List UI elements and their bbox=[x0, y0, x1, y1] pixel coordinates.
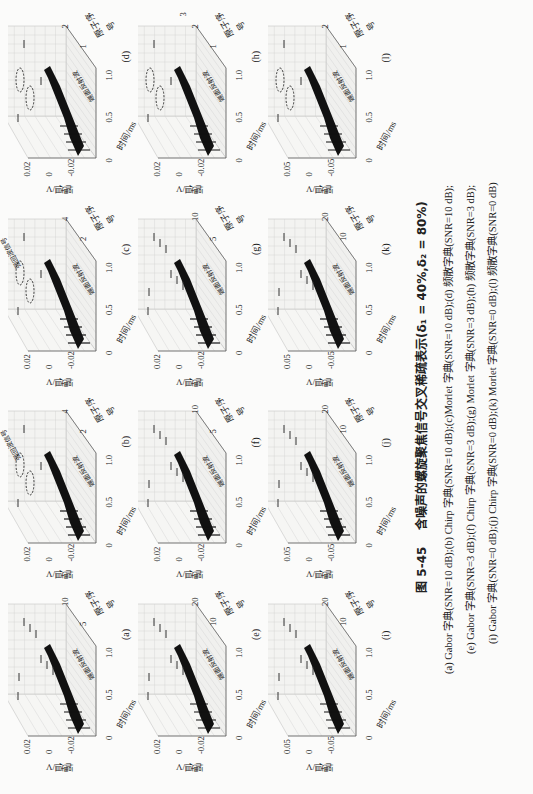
y-tick-mid: 0 bbox=[44, 750, 54, 754]
x-tick-0: 0 bbox=[234, 351, 244, 355]
x-tick-0: 0 bbox=[104, 351, 114, 355]
y-tick-bot: -0.02 bbox=[66, 544, 76, 562]
x-tick-0-5: 0.5 bbox=[234, 497, 244, 508]
z-tick-1: 10 bbox=[208, 618, 218, 627]
chart-panel-a: 幅值/V 0.02 0 -0.02 0 0.5 1.0 时间/ms 5 10 原… bbox=[8, 584, 138, 777]
z-tick-3: 3 bbox=[178, 12, 188, 16]
z-tick-1: 2 bbox=[78, 429, 88, 433]
y-axis-label: 幅值/V bbox=[46, 761, 73, 774]
z-tick-1: 5 bbox=[78, 622, 88, 626]
y-tick-bot: -0.02 bbox=[196, 351, 206, 369]
y-tick-mid: 0 bbox=[304, 750, 314, 754]
z-tick-2: 2 bbox=[60, 24, 70, 28]
z-tick-2: 10 bbox=[60, 598, 70, 607]
chart-panel-l: 幅值/V 0.05 0 -0.05 0 0.5 1.0 时间/ms 1 2 原子… bbox=[268, 6, 398, 199]
chart-panel-j: 幅值/V 0.05 0 -0.05 0 0.5 1.0 时间/ms 10 20 … bbox=[268, 391, 398, 584]
y-tick-top: 0.02 bbox=[152, 162, 162, 177]
y-axis-label: 幅值/V bbox=[176, 376, 203, 389]
x-tick-0-5: 0.5 bbox=[104, 497, 114, 508]
panel-label: (b) bbox=[120, 436, 131, 448]
x-tick-1-0: 1.0 bbox=[234, 262, 244, 273]
chart-panel-e: 幅值/V 0.02 0 -0.02 0 0.5 1.0 时间/ms 10 20 … bbox=[138, 584, 268, 777]
y-tick-top: 0.05 bbox=[282, 162, 292, 177]
chart-panel-d: 幅值/V 0.02 0 -0.02 0 0.5 1.0 时间/ms 1 2 原子… bbox=[8, 6, 138, 199]
z-tick-2: 20 bbox=[320, 598, 330, 607]
y-tick-bot: -0.05 bbox=[326, 159, 336, 177]
y-tick-mid: 0 bbox=[174, 557, 184, 561]
y-tick-bot: -0.02 bbox=[66, 351, 76, 369]
z-tick-2: 10 bbox=[190, 405, 200, 414]
panel-grid: 幅值/V 0.02 0 -0.02 0 0.5 1.0 时间/ms 5 10 原… bbox=[8, 6, 398, 776]
x-tick-0: 0 bbox=[234, 158, 244, 162]
x-tick-0: 0 bbox=[104, 158, 114, 162]
y-axis-label: 幅值/V bbox=[46, 569, 73, 582]
rotated-page: 幅值/V 0.02 0 -0.02 0 0.5 1.0 时间/ms 5 10 原… bbox=[0, 0, 533, 794]
y-tick-bot: -0.02 bbox=[66, 159, 76, 177]
x-tick-1-0: 1.0 bbox=[364, 70, 374, 81]
z-tick-1: 5 bbox=[208, 237, 218, 241]
y-tick-mid: 0 bbox=[44, 557, 54, 561]
y-tick-top: 0.02 bbox=[152, 739, 162, 754]
z-tick-2: 20 bbox=[320, 213, 330, 222]
panel-label: (g) bbox=[250, 243, 261, 255]
z-tick-1: 10 bbox=[338, 618, 348, 627]
y-tick-top: 0.02 bbox=[22, 354, 32, 369]
x-tick-0-5: 0.5 bbox=[364, 112, 374, 123]
chart-panel-f: 幅值/V 0.02 0 -0.02 0 0.5 1.0 时间/ms 5 10 原… bbox=[138, 391, 268, 584]
x-tick-0-5: 0.5 bbox=[234, 112, 244, 123]
y-tick-top: 0.02 bbox=[22, 162, 32, 177]
x-tick-0: 0 bbox=[364, 736, 374, 740]
y-axis-label: 幅值/V bbox=[176, 761, 203, 774]
x-tick-0: 0 bbox=[104, 736, 114, 740]
z-tick-2: 4 bbox=[60, 217, 70, 221]
y-tick-bot: -0.05 bbox=[326, 544, 336, 562]
x-tick-0-5: 0.5 bbox=[364, 497, 374, 508]
y-tick-top: 0.05 bbox=[282, 739, 292, 754]
caption-line-3: (i) Gabor 字典(SNR=0 dB);(j) Chirp 字典(SNR=… bbox=[484, 182, 499, 644]
x-tick-1-0: 1.0 bbox=[364, 262, 374, 273]
chart-panel-c: 幅值/V 0.02 0 -0.02 0 0.5 1.0 时间/ms 2 4 原子… bbox=[8, 199, 138, 392]
x-tick-1-0: 1.0 bbox=[234, 455, 244, 466]
x-tick-1-0: 1.0 bbox=[364, 455, 374, 466]
y-axis-label: 幅值/V bbox=[306, 184, 333, 197]
y-axis-label: 幅值/V bbox=[306, 761, 333, 774]
z-tick-2: 2 bbox=[320, 24, 330, 28]
y-tick-mid: 0 bbox=[174, 172, 184, 176]
panel-label: (h) bbox=[250, 51, 261, 63]
x-tick-0: 0 bbox=[364, 543, 374, 547]
panel-label: (e) bbox=[250, 629, 261, 640]
y-tick-mid: 0 bbox=[174, 750, 184, 754]
z-tick-1: 1 bbox=[338, 44, 348, 48]
caption-line-2: (e) Gabor 字典(SNR=3 dB);(f) Chirp 字典(SNR=… bbox=[462, 185, 477, 654]
x-tick-0-5: 0.5 bbox=[364, 689, 374, 700]
x-tick-0: 0 bbox=[364, 351, 374, 355]
chart-panel-i: 幅值/V 0.05 0 -0.05 0 0.5 1.0 时间/ms 10 20 … bbox=[268, 584, 398, 777]
z-tick-2: 20 bbox=[320, 405, 330, 414]
x-tick-0: 0 bbox=[104, 543, 114, 547]
y-tick-bot: -0.02 bbox=[196, 159, 206, 177]
y-tick-bot: -0.05 bbox=[326, 351, 336, 369]
y-axis-label: 幅值/V bbox=[306, 376, 333, 389]
z-tick-2: 20 bbox=[190, 598, 200, 607]
x-tick-0: 0 bbox=[234, 543, 244, 547]
y-tick-top: 0.05 bbox=[282, 547, 292, 562]
x-tick-1-0: 1.0 bbox=[234, 70, 244, 81]
panel-label: (f) bbox=[250, 438, 261, 448]
x-tick-0: 0 bbox=[364, 158, 374, 162]
z-tick-2: 4 bbox=[60, 409, 70, 413]
panel-label: (c) bbox=[120, 244, 131, 255]
panel-label: (d) bbox=[120, 51, 131, 63]
y-tick-bot: -0.02 bbox=[196, 544, 206, 562]
x-tick-1-0: 1.0 bbox=[104, 70, 114, 81]
x-tick-0-5: 0.5 bbox=[104, 112, 114, 123]
x-tick-1-0: 1.0 bbox=[104, 262, 114, 273]
z-tick-1: 10 bbox=[338, 425, 348, 434]
caption-line-1: (a) Gabor 字典(SNR=10 dB);(b) Chirp 字典(SNR… bbox=[440, 185, 455, 674]
figure-number: 图 5-45 bbox=[415, 547, 429, 593]
chart-panel-g: 幅值/V 0.02 0 -0.02 0 0.5 1.0 时间/ms 5 10 原… bbox=[138, 199, 268, 392]
z-tick-1: 1 bbox=[78, 44, 88, 48]
z-tick-2: 10 bbox=[190, 213, 200, 222]
panel-label: (a) bbox=[120, 629, 131, 640]
z-tick-1: 1 bbox=[208, 44, 218, 48]
x-tick-0-5: 0.5 bbox=[234, 304, 244, 315]
